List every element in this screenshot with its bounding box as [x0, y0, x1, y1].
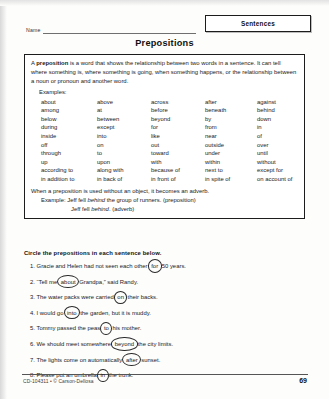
word-list-row: aboutaboveacrossafteragainst	[41, 98, 303, 107]
circled-preposition[interactable]: about	[59, 278, 78, 286]
word-list-row: in addition toin back ofin front ofin sp…	[41, 175, 303, 184]
preposition-word: under	[205, 149, 257, 158]
preposition-word: at	[97, 106, 151, 115]
preposition-word: beneath	[205, 106, 257, 115]
adverb-example-1-italic: behind	[87, 197, 105, 203]
word-list-row: throughtotowardunderuntil	[41, 149, 303, 158]
page-edge-shadow-left	[0, 0, 7, 399]
circled-preposition[interactable]: beyond	[113, 340, 136, 348]
footer-product-code: CD-104311 • © Carson-Dellosa	[23, 379, 94, 384]
circled-preposition[interactable]: in	[98, 371, 107, 379]
name-write-line[interactable]	[43, 26, 196, 34]
preposition-word: with	[151, 158, 205, 167]
word-list-row: insideintolikenearof	[41, 132, 303, 141]
preposition-word: across	[151, 98, 205, 107]
adverb-example-1-pre: Jeff fell	[66, 197, 88, 203]
preposition-word: except	[97, 123, 151, 132]
preposition-word: because of	[151, 166, 205, 175]
adverb-example-2-post: . (adverb)	[109, 206, 134, 212]
preposition-word: in	[257, 123, 303, 132]
definition-keyword: preposition	[36, 60, 68, 66]
preposition-word: into	[97, 132, 151, 141]
word-list-row: according toalong withbecause ofnext toe…	[41, 166, 303, 175]
preposition-word: between	[97, 115, 151, 124]
preposition-word: by	[205, 115, 257, 124]
word-list-row: belowbetweenbeyondbydown	[41, 115, 303, 124]
circled-preposition[interactable]: after	[124, 356, 140, 364]
subject-badge-label: Sentences	[241, 20, 275, 27]
exercise-item[interactable]: 5. Tommy passed the peas to his mother.	[30, 324, 312, 340]
item-text-before: “Tell me	[35, 279, 59, 285]
exercise-directions: Circle the prepositions in each sentence…	[24, 250, 161, 256]
preposition-word: over	[257, 141, 303, 150]
exercise-item[interactable]: 1. Gracie and Helen had not seen each ot…	[30, 262, 312, 278]
preposition-word: like	[151, 132, 205, 141]
preposition-word: behind	[257, 106, 303, 115]
preposition-word: until	[257, 149, 303, 158]
exercise-item-list: 1. Gracie and Helen had not seen each ot…	[30, 262, 312, 387]
definition-rest: is a word that shows the relationship be…	[31, 60, 296, 84]
item-text-after: the city limits.	[136, 341, 173, 347]
circled-preposition[interactable]: into	[65, 309, 79, 317]
item-text-before: I would go	[35, 310, 65, 316]
page-title: Prepositions	[0, 38, 329, 48]
name-label: Name	[26, 27, 41, 34]
preposition-word: about	[41, 98, 97, 107]
footer-page-number: 69	[299, 377, 307, 384]
preposition-word: outside	[205, 141, 257, 150]
preposition-word: in spite of	[205, 175, 257, 184]
preposition-word: upon	[97, 158, 151, 167]
preposition-word-list: aboutaboveacrossafteragainstamongatbefor…	[41, 98, 303, 184]
item-text-after: sunset.	[140, 357, 161, 363]
preposition-word: from	[205, 123, 257, 132]
adverb-example-preposition: Example: Jeff fell behind the group of r…	[41, 196, 298, 205]
preposition-word: below	[41, 115, 97, 124]
preposition-word: among	[41, 106, 97, 115]
exercise-item[interactable]: 7. The lights come on automatically afte…	[30, 356, 312, 372]
preposition-word: against	[257, 98, 303, 107]
preposition-word: during	[41, 123, 97, 132]
preposition-word: to	[97, 149, 151, 158]
preposition-word: toward	[151, 149, 205, 158]
preposition-word: on account of	[257, 175, 303, 184]
item-text-before: The lights come on automatically	[35, 357, 124, 363]
name-field[interactable]: Name	[26, 26, 196, 34]
preposition-word: beyond	[151, 115, 205, 124]
adverb-example-adverb: Jeff fell behind. (adverb)	[71, 205, 298, 214]
adverb-example-2-italic: behind	[91, 206, 109, 212]
preposition-word: in back of	[97, 175, 151, 184]
preposition-word: out	[151, 141, 205, 150]
circled-preposition[interactable]: for	[149, 262, 160, 270]
exercise-item[interactable]: 4. I would go into the garden, but it is…	[30, 309, 312, 325]
preposition-word: within	[205, 158, 257, 167]
word-list-row: duringexceptforfromin	[41, 123, 303, 132]
preposition-word: on	[97, 141, 151, 150]
preposition-word: in front of	[151, 175, 205, 184]
circled-preposition[interactable]: to	[102, 324, 111, 332]
preposition-word: off	[41, 141, 97, 150]
preposition-word: up	[41, 158, 97, 167]
item-text-after: Grandpa,” said Randy.	[78, 279, 138, 285]
item-text-after: 50 years.	[160, 263, 186, 269]
item-text-after: their backs.	[126, 294, 158, 300]
definition-text: A preposition is a word that shows the r…	[31, 59, 298, 87]
preposition-word: through	[41, 149, 97, 158]
word-list-row: amongatbeforebeneathbehind	[41, 106, 303, 115]
item-text-before: Gracie and Helen had not seen each other	[35, 263, 149, 269]
exercise-item[interactable]: 6. We should meet somewhere beyond the c…	[30, 340, 312, 356]
preposition-word: near	[205, 132, 257, 141]
preposition-word: in addition to	[41, 175, 97, 184]
definition-box: A preposition is a word that shows the r…	[24, 54, 305, 219]
exercise-item[interactable]: 3. The water packs were carried on their…	[30, 293, 312, 309]
preposition-word: for	[151, 123, 205, 132]
adverb-example-1-post: the group of runners. (preposition)	[105, 197, 196, 203]
subject-badge: Sentences	[205, 15, 311, 32]
adverb-note: When a preposition is used without an ob…	[31, 187, 298, 196]
circled-preposition[interactable]: on	[115, 293, 126, 301]
exercise-item[interactable]: 2. “Tell me about Grandpa,” said Randy.	[30, 278, 312, 294]
footer-divider	[22, 374, 308, 375]
adverb-example-label: Example:	[41, 197, 66, 203]
preposition-word: according to	[41, 166, 97, 175]
word-list-row: upuponwithwithinwithout	[41, 158, 303, 167]
preposition-word: after	[205, 98, 257, 107]
